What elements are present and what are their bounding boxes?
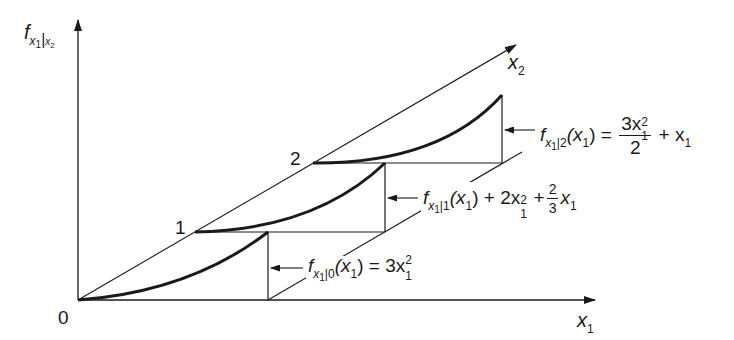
origin-label: 0 (58, 308, 69, 327)
x2-label-x: x (508, 51, 518, 73)
fraction: 3x212 (619, 114, 651, 157)
arg-close: ) (589, 124, 595, 145)
plus: + (534, 187, 545, 208)
rhs-sup: 2 (405, 254, 412, 266)
x1-label-x: x (577, 309, 587, 331)
rhs1-sub: 1 (520, 208, 527, 220)
arg: (x (450, 187, 466, 208)
x2-tick-label-2: 2 (290, 149, 301, 168)
label-cond-idx: 2 (50, 41, 54, 50)
arg: (x (335, 255, 351, 276)
slice-2 (313, 95, 502, 163)
x2-tick-label-1: 1 (175, 218, 186, 237)
rhs2-sub: 1 (684, 136, 691, 150)
x2-axis-label: x2 (508, 52, 525, 77)
x2-axis (78, 45, 516, 300)
rhs2: + x (659, 124, 685, 145)
formula-slice-2: fx1|2(x1) = 3x212 + x1 (538, 114, 693, 157)
vertical-axis-label: fx1|x2 (24, 22, 55, 50)
x2-label-idx: 2 (518, 64, 525, 78)
fraction: 23 (547, 182, 559, 215)
cond: 1 (443, 199, 450, 213)
cond: 0 (328, 267, 335, 281)
arg-close: ) (472, 187, 478, 208)
rhs2: x (560, 187, 570, 208)
equals: = (601, 124, 612, 145)
frac-num-sup: 2 (641, 116, 648, 128)
formula-slice-0: fx1|0(x1) = 3x21 (306, 256, 415, 283)
cond: 2 (560, 136, 567, 150)
rhs2-sub: 1 (570, 199, 577, 213)
x1-label-idx: 1 (587, 322, 594, 336)
rhs1-sup: 2 (520, 194, 527, 206)
arg-close: ) (357, 255, 363, 276)
rhs: = 3x (369, 255, 405, 276)
diagram-canvas (0, 0, 734, 340)
slice-0 (78, 232, 268, 300)
slice-1 (195, 163, 385, 232)
rhs-sub: 1 (405, 270, 412, 282)
x1-axis-label: x1 (577, 310, 594, 335)
rhs1: + 2x (484, 187, 520, 208)
formula-slice-1: fx1|1(x1) + 2x21 +23x1 (421, 182, 579, 215)
frac-num: 3x (621, 113, 641, 134)
frac-den: 3 (547, 199, 559, 215)
arg: (x (567, 124, 583, 145)
frac-num-sub: 1 (641, 130, 648, 142)
frac-num: 2 (547, 182, 559, 199)
